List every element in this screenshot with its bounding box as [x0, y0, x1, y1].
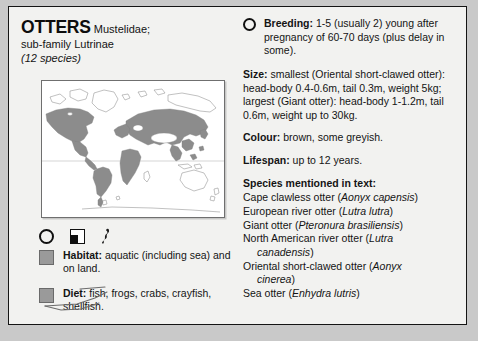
species-latin: Lutra lutra — [342, 205, 389, 217]
species-heading: Species mentioned in text: — [243, 177, 456, 191]
species-latin: Enhydra lutris — [292, 287, 356, 299]
size-body: smallest (Oriental short-clawed otter): … — [243, 68, 445, 121]
species-close: ) — [390, 205, 394, 217]
species-common: Giant otter ( — [243, 219, 298, 231]
encyclopedia-page: OTTERS Mustelidae; sub-family Lutrinae (… — [8, 6, 467, 325]
diet-text: Diet: fish, frogs, crabs, crayfish, shel… — [63, 287, 234, 314]
circle-outline-icon — [39, 229, 54, 244]
species-close: ) — [399, 219, 403, 231]
species-close: ) — [415, 191, 419, 203]
size-block: Size: smallest (Oriental short-clawed ot… — [243, 68, 456, 123]
diet-label: Diet: — [63, 287, 86, 299]
title-species-count: (12 species) — [21, 52, 231, 65]
colour-body: brown, some greyish. — [280, 131, 383, 143]
legend-list: Habitat: aquatic (including sea) and on … — [39, 249, 234, 325]
species-close: ) — [291, 273, 295, 285]
map-svg — [42, 81, 224, 217]
icon-legend-row — [39, 226, 113, 246]
list-item: Cape clawless otter (Aonyx capensis) — [243, 191, 456, 205]
habitat-text: Habitat: aquatic (including sea) and on … — [63, 249, 234, 276]
species-common: European river otter ( — [243, 205, 342, 217]
species-latin: Aonyx — [373, 260, 402, 272]
lifespan-body: up to 12 years. — [290, 154, 362, 166]
list-item: Oriental short-clawed otter (Aonyx — [243, 260, 456, 274]
species-latin: Pteronura brasiliensis — [298, 219, 399, 231]
legend-item-habitat: Habitat: aquatic (including sea) and on … — [39, 249, 234, 276]
list-item-continuation: cinerea) — [243, 273, 456, 287]
habitat-swatch — [39, 250, 54, 265]
page-title: OTTERS Mustelidae; sub-family Lutrinae (… — [21, 17, 231, 65]
list-item-continuation: canadensis) — [243, 246, 456, 260]
list-item: Giant otter (Pteronura brasiliensis) — [243, 219, 456, 233]
species-close: ) — [310, 246, 314, 258]
otter-silhouette-icon — [101, 228, 113, 244]
species-common: Oriental short-clawed otter ( — [243, 260, 373, 272]
breeding-label: Breeding: — [264, 17, 313, 29]
diet-body: fish, frogs, crabs, crayfish, shellfish. — [63, 287, 211, 312]
species-common: Cape clawless otter ( — [243, 191, 341, 203]
species-heading-label: Species mentioned in text: — [243, 177, 376, 189]
species-common: North American river otter ( — [243, 232, 369, 244]
world-distribution-map — [41, 80, 225, 218]
species-latin-cont: cinerea — [257, 273, 291, 285]
lifespan-block: Lifespan: up to 12 years. — [243, 154, 456, 168]
legend-item-diet: Diet: fish, frogs, crabs, crayfish, shel… — [39, 287, 234, 314]
habitat-label: Habitat: — [63, 249, 102, 261]
two-column-layout: OTTERS Mustelidae; sub-family Lutrinae (… — [9, 7, 466, 324]
colour-block: Colour: brown, some greyish. — [243, 131, 456, 145]
breeding-block: Breeding: 1-5 (usually 2) young after pr… — [243, 17, 456, 58]
title-family: Mustelidae; — [91, 23, 150, 35]
list-item: European river otter (Lutra lutra) — [243, 205, 456, 219]
species-common: Sea otter ( — [243, 287, 292, 299]
size-label: Size: — [243, 68, 268, 80]
species-latin: Lutra — [369, 232, 393, 244]
lifespan-label: Lifespan: — [243, 154, 290, 166]
diet-swatch — [39, 288, 54, 303]
species-latin-cont: canadensis — [257, 246, 310, 258]
species-list: Cape clawless otter (Aonyx capensis) Eur… — [243, 191, 456, 300]
half-filled-square-icon — [70, 229, 85, 244]
colour-label: Colour: — [243, 131, 280, 143]
right-column: Breeding: 1-5 (usually 2) young after pr… — [243, 17, 456, 318]
breeding-text: Breeding: 1-5 (usually 2) young after pr… — [264, 17, 456, 58]
circle-outline-icon — [243, 18, 256, 31]
species-close: ) — [356, 287, 360, 299]
list-item: Sea otter (Enhydra lutris) — [243, 287, 456, 301]
list-item: North American river otter (Lutra — [243, 232, 456, 246]
species-latin: Aonyx capensis — [341, 191, 415, 203]
title-main: OTTERS — [21, 17, 91, 37]
left-column: OTTERS Mustelidae; sub-family Lutrinae (… — [21, 17, 231, 318]
title-subfamily: sub-family Lutrinae — [21, 38, 231, 51]
